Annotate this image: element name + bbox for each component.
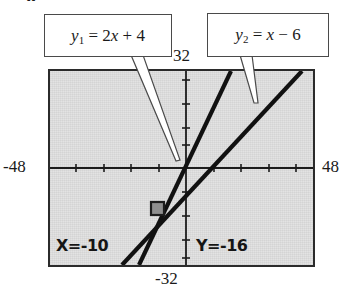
y2-subscript: 2 — [243, 33, 249, 45]
y2-callout: y2 = x − 6 — [207, 13, 329, 57]
trace-x-readout: X=-10 — [56, 236, 108, 255]
y1-callout-pointer — [131, 55, 180, 161]
y1-callout: y1 = 2x + 4 — [44, 14, 172, 57]
y2-equation-text: y2 = x − 6 — [235, 25, 300, 45]
y2-rhs: = x − 6 — [253, 25, 301, 44]
y1-subscript: 1 — [79, 34, 85, 46]
y1-rhs: = 2x + 4 — [88, 26, 144, 45]
y1-equation-text: y1 = 2x + 4 — [71, 26, 145, 46]
figure-root: g — [0, 0, 355, 295]
y2-callout-pointer — [240, 55, 258, 103]
y1-variable: y — [71, 26, 79, 45]
trace-y-readout: Y=-16 — [196, 236, 247, 255]
y2-variable: y — [235, 25, 243, 44]
